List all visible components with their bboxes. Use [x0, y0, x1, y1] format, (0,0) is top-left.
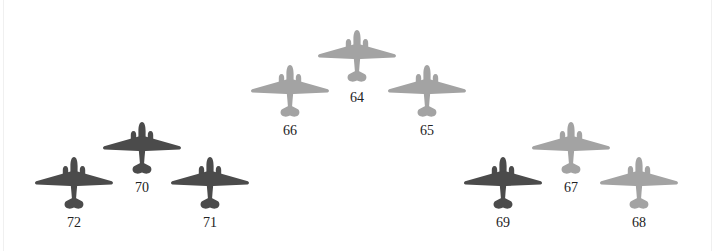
- aircraft-65: [387, 65, 467, 118]
- aircraft-label-71: 71: [190, 215, 230, 231]
- airplane-icon: [250, 65, 330, 118]
- aircraft-72: [34, 157, 114, 210]
- aircraft-69: [463, 157, 543, 210]
- aircraft-label-72: 72: [54, 215, 94, 231]
- airplane-icon: [170, 157, 250, 210]
- left-border: [3, 0, 4, 251]
- aircraft-label-65: 65: [407, 123, 447, 139]
- aircraft-71: [170, 157, 250, 210]
- airplane-icon: [34, 157, 114, 210]
- aircraft-label-68: 68: [619, 215, 659, 231]
- airplane-icon: [599, 157, 679, 210]
- right-border: [711, 0, 712, 251]
- aircraft-label-64: 64: [337, 90, 377, 106]
- aircraft-label-69: 69: [483, 215, 523, 231]
- aircraft-label-70: 70: [122, 180, 162, 196]
- airplane-icon: [463, 157, 543, 210]
- aircraft-68: [599, 157, 679, 210]
- aircraft-66: [250, 65, 330, 118]
- aircraft-label-66: 66: [270, 123, 310, 139]
- airplane-icon: [387, 65, 467, 118]
- aircraft-label-67: 67: [551, 180, 591, 196]
